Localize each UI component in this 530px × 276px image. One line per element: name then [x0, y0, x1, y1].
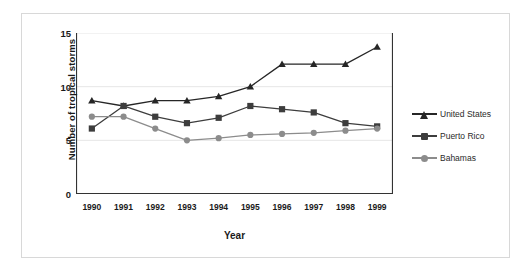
data-point: [342, 120, 348, 126]
data-point: [374, 125, 380, 131]
legend-label: Bahamas: [440, 153, 476, 163]
y-axis-tick-label: 0: [66, 189, 71, 200]
x-axis-title: Year: [76, 230, 393, 241]
legend-item-bahamas[interactable]: Bahamas: [412, 147, 507, 169]
data-point: [311, 130, 317, 136]
data-point: [279, 131, 285, 137]
legend-item-united-states[interactable]: United States: [412, 103, 507, 125]
data-point: [279, 106, 285, 112]
data-point: [247, 132, 253, 138]
x-axis-tick-label: 1998: [336, 202, 355, 212]
x-axis-tick-label: 1994: [209, 202, 228, 212]
y-axis-tick-label: 5: [66, 135, 71, 146]
data-point: [184, 137, 190, 143]
x-axis-tick-label: 1990: [82, 202, 101, 212]
legend-triangle-marker-icon: [420, 111, 428, 119]
data-point: [216, 115, 222, 121]
y-axis-tick-label: 15: [60, 28, 71, 39]
x-axis-tick-label: 1996: [273, 202, 292, 212]
data-point: [152, 114, 158, 120]
data-point: [342, 128, 348, 134]
data-point: [120, 103, 126, 109]
data-point: [89, 125, 95, 131]
legend-item-puerto-rico[interactable]: Puerto Rico: [412, 125, 507, 147]
x-axis-tick-label: 1999: [368, 202, 387, 212]
legend-label: United States: [440, 109, 491, 119]
data-point: [120, 114, 126, 120]
x-axis-tick-label: 1992: [146, 202, 165, 212]
chart-figure: Number of tropical storms 05101519901991…: [0, 0, 530, 276]
y-axis-title: Number of tropical storms: [62, 19, 82, 180]
data-point: [216, 135, 222, 141]
data-point: [373, 43, 380, 50]
legend-swatch: [412, 109, 437, 119]
x-axis-tick-label: 1991: [114, 202, 133, 212]
plot-area: Number of tropical storms 05101519901991…: [76, 33, 393, 194]
chart-legend: United StatesPuerto RicoBahamas: [412, 103, 507, 169]
data-point: [88, 97, 95, 104]
legend-swatch: [412, 153, 437, 163]
x-axis-tick-label: 1997: [304, 202, 323, 212]
x-axis-tick-label: 1995: [241, 202, 260, 212]
legend-circle-marker-icon: [421, 155, 428, 162]
legend-swatch: [412, 131, 437, 141]
x-axis-tick-label: 1993: [177, 202, 196, 212]
data-point: [89, 114, 95, 120]
y-axis-tick-label: 10: [60, 81, 71, 92]
data-point: [152, 125, 158, 131]
plot-svg: [76, 33, 393, 194]
data-point: [184, 120, 190, 126]
legend-square-marker-icon: [421, 133, 428, 140]
legend-label: Puerto Rico: [440, 131, 484, 141]
data-point: [247, 103, 253, 109]
data-point: [311, 109, 317, 115]
